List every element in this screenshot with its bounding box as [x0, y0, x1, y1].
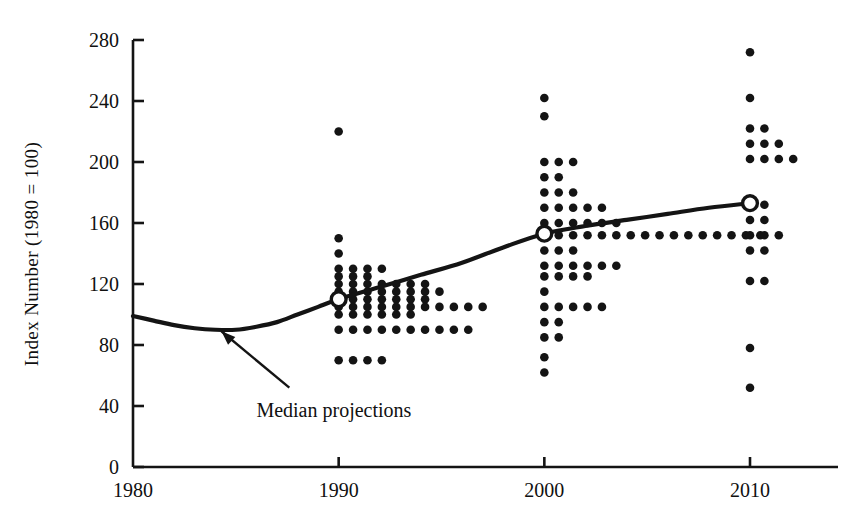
projection-dot	[378, 356, 387, 365]
projection-dot	[540, 368, 549, 377]
projection-dot	[554, 188, 563, 197]
projection-dot	[554, 158, 563, 167]
projection-dot	[670, 231, 679, 240]
projection-dot	[363, 280, 372, 289]
projection-dot	[392, 303, 401, 312]
projection-dot	[583, 203, 592, 212]
projection-dot	[435, 325, 444, 334]
projection-dot	[746, 231, 755, 240]
projection-dot	[392, 295, 401, 304]
projection-dot	[334, 356, 343, 365]
projection-dot	[760, 200, 769, 209]
projection-dot	[349, 264, 358, 273]
projection-dot	[540, 203, 549, 212]
projection-dot	[464, 325, 473, 334]
projection-dot	[435, 287, 444, 296]
projection-dot	[349, 272, 358, 281]
projection-dot	[392, 325, 401, 334]
projection-dot	[612, 231, 621, 240]
y-tick-label: 240	[89, 90, 119, 112]
projection-dot	[435, 303, 444, 312]
median-marker	[743, 196, 758, 211]
projection-dot	[478, 303, 487, 312]
projection-dot	[406, 310, 415, 319]
projection-dot	[540, 261, 549, 270]
projection-dot	[334, 127, 343, 136]
projection-dot	[378, 264, 387, 273]
chart-canvas: 04080120160200240280 1980199020002010 In…	[0, 0, 844, 529]
projection-dot	[598, 303, 607, 312]
projection-dot	[406, 280, 415, 289]
y-tick-label: 160	[89, 212, 119, 234]
projection-dot	[363, 303, 372, 312]
projection-dot	[406, 325, 415, 334]
projection-dot	[540, 318, 549, 327]
projection-dot	[334, 280, 343, 289]
annotation-label: Median projections	[256, 399, 411, 422]
projection-dot	[612, 261, 621, 270]
projection-dot	[540, 94, 549, 103]
y-axis-title-text: Index Number (1980 = 100)	[21, 142, 43, 366]
projection-dot	[378, 303, 387, 312]
projection-dot	[746, 246, 755, 255]
x-tick-label: 1990	[319, 479, 359, 501]
projection-dot	[540, 112, 549, 121]
projection-dot	[421, 325, 430, 334]
projection-dot	[746, 139, 755, 148]
projection-dot	[378, 295, 387, 304]
projection-dot	[583, 231, 592, 240]
chart-background	[0, 0, 844, 529]
projection-dot	[598, 231, 607, 240]
projection-dot	[583, 272, 592, 281]
projection-dot	[569, 261, 578, 270]
projection-dot	[554, 203, 563, 212]
projection-dot	[378, 310, 387, 319]
projection-dot	[334, 249, 343, 258]
y-tick-label: 0	[109, 456, 119, 478]
projection-dot	[334, 325, 343, 334]
projection-dot	[775, 155, 784, 164]
projection-dot	[569, 231, 578, 240]
projection-dot	[746, 124, 755, 133]
projection-dot	[569, 203, 578, 212]
projection-dot	[760, 216, 769, 225]
projection-dot	[540, 272, 549, 281]
median-marker	[331, 292, 346, 307]
projection-dot	[684, 231, 693, 240]
projection-dot	[569, 188, 578, 197]
median-marker	[537, 226, 552, 241]
projection-dot	[746, 277, 755, 286]
y-tick-label: 280	[89, 29, 119, 51]
projection-dot	[554, 318, 563, 327]
projection-dot	[760, 139, 769, 148]
projection-dot	[569, 303, 578, 312]
projection-dot	[760, 231, 769, 240]
projection-dot	[554, 333, 563, 342]
projection-dot	[540, 333, 549, 342]
projection-dot	[540, 287, 549, 296]
projection-dot	[349, 310, 358, 319]
projection-dot	[569, 158, 578, 167]
projection-dot	[363, 295, 372, 304]
projection-dot	[363, 325, 372, 334]
projection-dot	[598, 203, 607, 212]
projection-dot	[450, 303, 459, 312]
projection-dot	[349, 280, 358, 289]
projection-dot	[746, 94, 755, 103]
projection-dot	[421, 287, 430, 296]
projection-dot	[789, 155, 798, 164]
projection-dot	[363, 356, 372, 365]
projection-dot	[540, 173, 549, 182]
projection-dot	[713, 231, 722, 240]
projection-dot	[349, 303, 358, 312]
projection-dot	[554, 246, 563, 255]
projection-dot	[598, 261, 607, 270]
projection-dot	[727, 231, 736, 240]
projection-dot	[464, 303, 473, 312]
y-axis-title: Index Number (1980 = 100)	[21, 142, 43, 366]
x-tick-label: 2000	[524, 479, 564, 501]
projection-dot	[392, 287, 401, 296]
projection-dot	[583, 261, 592, 270]
projection-dot	[746, 383, 755, 392]
projection-dot	[554, 261, 563, 270]
